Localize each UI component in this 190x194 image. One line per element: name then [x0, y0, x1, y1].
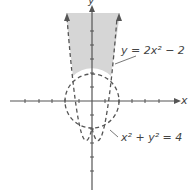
parabola-equation-label: y = 2x² − 2 — [121, 44, 185, 57]
x-axis-label: x — [181, 94, 188, 107]
graph-figure: x y y = 2x² − 2 x² + y² = 4 — [0, 0, 190, 194]
circle-equation-label: x² + y² = 4 — [121, 131, 182, 144]
y-axis-label: y — [88, 0, 95, 7]
graph-canvas — [0, 0, 190, 194]
